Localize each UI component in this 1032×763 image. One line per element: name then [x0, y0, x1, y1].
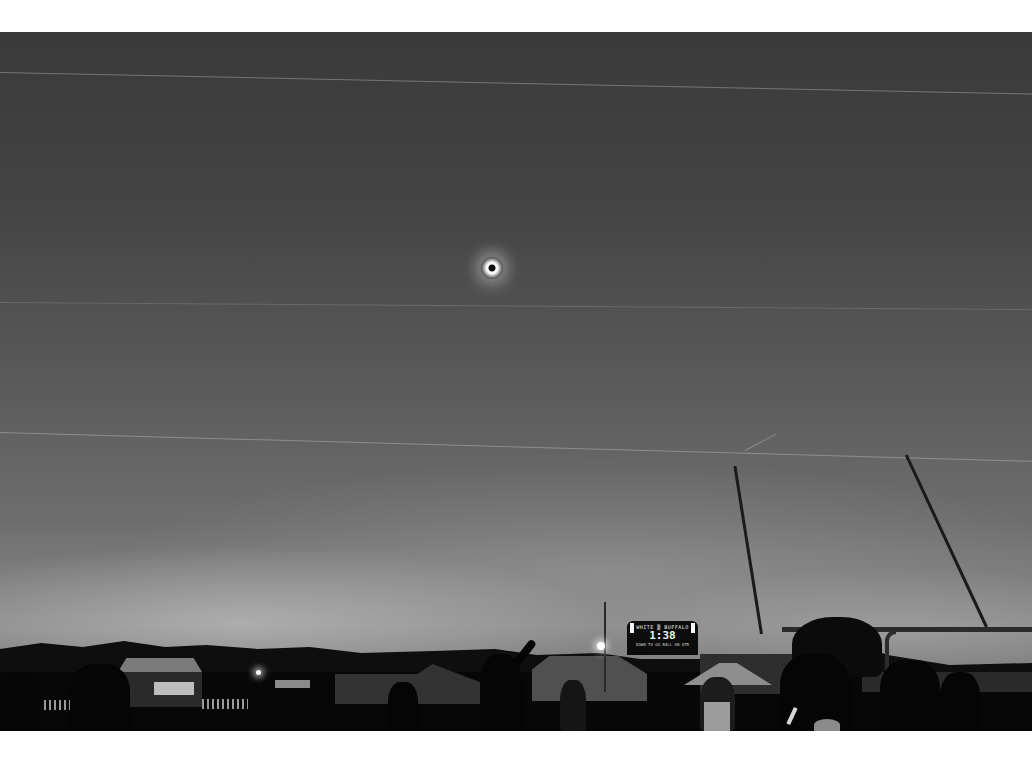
- eclipse-photograph: WHITE ▒ BUFFALO 1:38 DOWN TO GO BALL ON …: [0, 32, 1032, 731]
- scoreboard-labels: DOWN TO GO BALL ON QTR: [627, 642, 698, 647]
- scoreboard-clock: 1:38: [627, 630, 698, 642]
- goalpost-left-upright: [733, 466, 763, 634]
- scoreboard: WHITE ▒ BUFFALO 1:38 DOWN TO GO BALL ON …: [627, 621, 698, 655]
- contrail: [0, 432, 1032, 462]
- spectator: [70, 664, 130, 731]
- stadium-light: [256, 670, 261, 675]
- fence: [202, 699, 248, 709]
- scoreboard-side-light: [630, 623, 634, 633]
- stadium-light: [597, 642, 605, 650]
- spectator: [560, 680, 586, 731]
- goalpost-right-upright: [905, 454, 988, 627]
- contrail: [0, 302, 1032, 310]
- spectator: [388, 682, 418, 731]
- eclipse-corona: [481, 257, 503, 279]
- spectator-head-highlight: [814, 719, 840, 731]
- banner: [154, 682, 194, 695]
- contrail: [745, 434, 776, 451]
- contrail: [0, 72, 1032, 95]
- spectator: [880, 660, 940, 731]
- spectator-shirt-highlight: [704, 702, 730, 731]
- tent-roof: [118, 658, 202, 672]
- spectator: [0, 672, 40, 731]
- spectator: [940, 672, 980, 731]
- tent-roof: [275, 680, 310, 688]
- scoreboard-side-light: [691, 623, 695, 633]
